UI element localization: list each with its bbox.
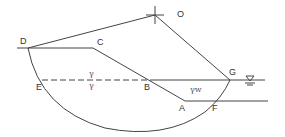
label-F: F xyxy=(212,104,218,113)
label-O: O xyxy=(177,10,184,19)
label-gamma-above: γ xyxy=(89,70,94,78)
radius-OG xyxy=(155,15,230,80)
label-C: C xyxy=(97,38,104,47)
diagram-lines xyxy=(0,0,285,137)
label-D: D xyxy=(20,37,27,46)
slope-CA xyxy=(93,48,185,101)
label-gamma-w: γw xyxy=(190,86,202,94)
radius-OD xyxy=(28,15,155,48)
slope-diagram: O D C E B A F G γ γ γw xyxy=(0,0,285,137)
label-G: G xyxy=(229,68,236,77)
label-B: B xyxy=(144,83,150,92)
label-gamma-below: γ xyxy=(89,82,94,90)
label-A: A xyxy=(179,104,185,113)
label-E: E xyxy=(36,83,42,92)
